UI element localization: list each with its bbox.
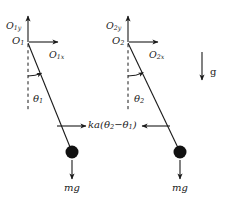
pendulum-diagram: O1y O1 O1x θ1 mg O2y O2 O2x θ2 mg ka(θ2−… (0, 0, 228, 200)
label-o1-origin: O1 (12, 36, 24, 47)
label-o1y: O1y (6, 21, 21, 32)
label-theta-2: θ2 (134, 94, 144, 105)
pendulum-2-bob (174, 146, 187, 159)
label-mg-left: mg (64, 183, 80, 193)
label-coupling-force: ka(θ2−θ1) (88, 120, 137, 131)
label-o2y: O2y (106, 21, 121, 32)
label-o1x: O1x (49, 50, 64, 61)
label-gravity: g (210, 67, 216, 77)
pendulum-1-bob (66, 146, 79, 159)
label-mg-right: mg (172, 183, 188, 193)
label-o2x: O2x (149, 50, 164, 61)
pendulum-2-angle-arc (128, 73, 143, 76)
label-o2-origin: O2 (112, 36, 124, 47)
pendulum-1-angle-arc (28, 73, 42, 76)
label-theta-1: θ1 (33, 94, 43, 105)
